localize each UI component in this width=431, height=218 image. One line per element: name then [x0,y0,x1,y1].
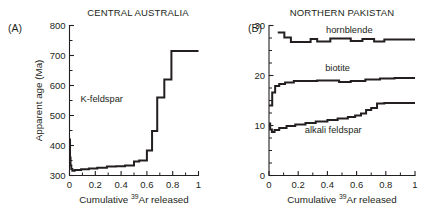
y-tick-label: 800 [50,20,66,31]
figure-canvas: (A)CENTRAL AUSTRALIA30040050060070080000… [0,0,431,218]
x-axis-ticks: 00.20.40.60.81 [266,171,417,190]
y-tick-label: 20 [254,70,265,81]
panel-a: (A)CENTRAL AUSTRALIA30040050060070080000… [8,7,201,205]
x-tick-label: 0 [266,179,271,190]
y-tick-label: 500 [50,110,66,121]
y-tick-label: 30 [254,20,265,31]
y-tick-label: 10 [254,120,265,131]
x-axis-title: Cumulative 39Ar released [287,193,396,205]
y-tick-label: 0 [260,170,265,181]
ar-ar-age-spectra-figure: (A)CENTRAL AUSTRALIA30040050060070080000… [0,0,431,218]
axis-spines [269,26,415,176]
y-tick-label: 300 [50,170,66,181]
panel-b: (B)NORTHERN PAKISTAN010203000.20.40.60.8… [248,7,418,205]
y-tick-label: 400 [50,140,66,151]
x-tick-label: 0.6 [140,179,153,190]
curve-label-hornblende: hornblende [326,25,373,35]
age-spectrum-biotite [269,78,415,106]
curve-label-biotite: biotite [325,63,350,73]
age-spectrum-k-feldspar [70,51,199,171]
y-tick-label: 700 [50,50,66,61]
panel-letter: (A) [8,22,22,34]
x-axis-ticks: 00.20.40.60.81 [67,171,201,190]
panel-title: NORTHERN PAKISTAN [290,7,394,18]
x-tick-label: 0.8 [379,179,392,190]
curve-label-k-feldspar: K-feldspar [81,94,123,104]
x-axis-title: Cumulative 39Ar released [79,193,188,205]
x-tick-label: 1 [412,179,417,190]
x-tick-label: 0.4 [114,179,127,190]
curve-label-alkali-feldspar: alkali feldspar [305,125,362,135]
x-tick-label: 0.4 [321,179,334,190]
y-tick-label: 600 [50,80,66,91]
y-axis-title: Apparent age (Ma) [33,60,44,142]
x-tick-label: 1 [196,179,201,190]
x-tick-label: 0.2 [292,179,305,190]
x-tick-label: 0 [67,179,72,190]
x-tick-label: 0.8 [166,179,179,190]
x-tick-label: 0.2 [89,179,102,190]
x-tick-label: 0.6 [350,179,363,190]
panel-title: CENTRAL AUSTRALIA [87,7,189,18]
y-axis-ticks: 0102030 [254,20,273,181]
